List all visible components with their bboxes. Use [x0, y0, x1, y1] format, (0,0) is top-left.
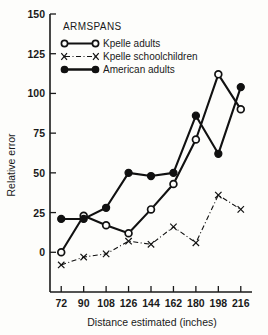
legend-entry-american-adults: American adults	[61, 64, 174, 75]
legend-marker-x-right	[93, 53, 99, 60]
datapoint-kpelle-schoolchildren-72	[58, 262, 64, 268]
series-layer	[58, 71, 245, 268]
datapoint-american-adults-180	[192, 112, 199, 119]
datapoint-kpelle-adults-180	[192, 136, 199, 143]
y-tick-label-0: 0	[39, 246, 45, 258]
legend-entry-kpelle-adults: Kpelle adults	[61, 38, 160, 49]
y-tick-label-125: 125	[27, 48, 45, 60]
legend-entry-kpelle-schoolchildren: Kpelle schoolchildren	[61, 51, 197, 62]
x-axis-ticks	[61, 286, 241, 292]
datapoint-kpelle-adults-198	[215, 71, 222, 78]
datapoint-american-adults-90	[80, 215, 87, 222]
series-american-adults	[58, 84, 245, 223]
legend-marker-open-circle-right	[92, 40, 98, 46]
x-tick-label-126: 126	[120, 297, 138, 309]
legend-marker-open-circle-left	[61, 40, 67, 46]
y-axis-ticks	[50, 14, 56, 252]
y-tick-label-150: 150	[27, 8, 45, 20]
datapoint-kpelle-schoolchildren-198	[215, 192, 221, 198]
legend-title: ARMSPANS	[63, 21, 122, 32]
datapoint-kpelle-schoolchildren-180	[193, 240, 199, 246]
datapoint-kpelle-schoolchildren-216	[238, 206, 244, 212]
chart-figure: 0255075100125150 72901081261441621801982…	[0, 0, 268, 335]
chart-legend: ARMSPANS Kpelle adults Kpelle s	[61, 21, 197, 75]
x-tick-label-162: 162	[165, 297, 183, 309]
y-axis-title: Relative error	[5, 133, 17, 197]
x-tick-label-198: 198	[210, 297, 228, 309]
datapoint-american-adults-216	[237, 84, 244, 91]
x-tick-label-180: 180	[187, 297, 205, 309]
x-tick-label-108: 108	[97, 297, 115, 309]
series-line-kpelle-adults	[61, 74, 241, 252]
datapoint-american-adults-108	[103, 204, 110, 211]
datapoint-kpelle-schoolchildren-162	[170, 224, 176, 230]
datapoint-kpelle-adults-162	[170, 181, 177, 188]
x-tick-label-144: 144	[142, 297, 160, 309]
y-tick-label-25: 25	[33, 207, 45, 219]
datapoint-american-adults-144	[148, 173, 155, 180]
x-tick-label-72: 72	[55, 297, 67, 309]
y-tick-label-100: 100	[27, 87, 45, 99]
y-tick-label-75: 75	[33, 127, 45, 139]
datapoint-american-adults-162	[170, 169, 177, 176]
legend-label-american-adults: American adults	[103, 64, 175, 75]
datapoint-american-adults-126	[125, 169, 132, 176]
datapoint-kpelle-adults-126	[125, 230, 132, 237]
legend-marker-filled-circle-right	[92, 66, 98, 72]
series-line-american-adults	[61, 87, 241, 219]
datapoint-american-adults-198	[215, 150, 222, 157]
datapoint-american-adults-72	[58, 215, 65, 222]
legend-label-kpelle-schoolchildren: Kpelle schoolchildren	[103, 51, 198, 62]
datapoint-kpelle-adults-216	[237, 106, 244, 113]
armspans-line-chart: 0255075100125150 72901081261441621801982…	[0, 0, 268, 335]
series-kpelle-schoolchildren	[58, 192, 244, 268]
datapoint-kpelle-adults-108	[103, 222, 110, 229]
datapoint-kpelle-adults-144	[148, 206, 155, 213]
y-tick-label-50: 50	[33, 167, 45, 179]
x-axis-tick-labels: 7290108126144162180198216	[55, 297, 249, 309]
y-axis-tick-labels: 0255075100125150	[27, 8, 45, 258]
legend-marker-filled-circle-left	[61, 66, 67, 72]
series-kpelle-adults	[58, 71, 244, 256]
x-tick-label-216: 216	[232, 297, 250, 309]
datapoint-kpelle-adults-72	[58, 249, 65, 256]
x-axis-title: Distance estimated (inches)	[87, 316, 217, 328]
legend-label-kpelle-adults: Kpelle adults	[103, 38, 160, 49]
x-tick-label-90: 90	[78, 297, 90, 309]
